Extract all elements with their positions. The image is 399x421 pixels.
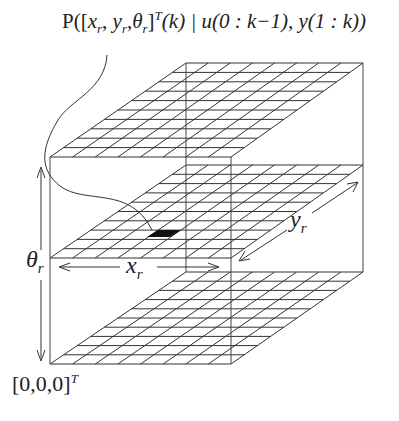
plane-top	[50, 63, 363, 157]
theta-label: θr	[26, 246, 44, 277]
x-label: xr	[126, 252, 143, 283]
plane-bottom	[50, 272, 363, 364]
probability-formula: P([xr, yr,θr]T(k) | u(0 : k−1), y(1 : k)…	[62, 8, 366, 37]
origin-label: [0,0,0]T	[12, 371, 78, 397]
y-label: yr	[290, 206, 307, 237]
plane-middle	[50, 165, 363, 258]
probability-curve	[45, 55, 152, 230]
grid-planes	[50, 63, 363, 364]
grid-cube-diagram	[0, 0, 399, 421]
